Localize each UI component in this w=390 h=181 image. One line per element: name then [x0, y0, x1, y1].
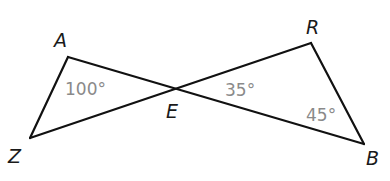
angle-label-e: 35° [225, 80, 255, 100]
segment-ab [68, 57, 364, 144]
segment-rb [311, 43, 364, 144]
geometry-diagram: A Z E R B 100° 35° 45° [0, 0, 390, 181]
vertex-label-e: E [166, 100, 178, 122]
vertex-label-r: R [306, 16, 319, 38]
angle-label-b: 45° [306, 105, 336, 125]
segment-az [30, 57, 68, 138]
angle-label-a: 100° [65, 79, 106, 99]
vertex-label-b: B [366, 147, 379, 169]
vertex-label-z: Z [7, 145, 22, 167]
vertex-label-a: A [52, 29, 67, 51]
